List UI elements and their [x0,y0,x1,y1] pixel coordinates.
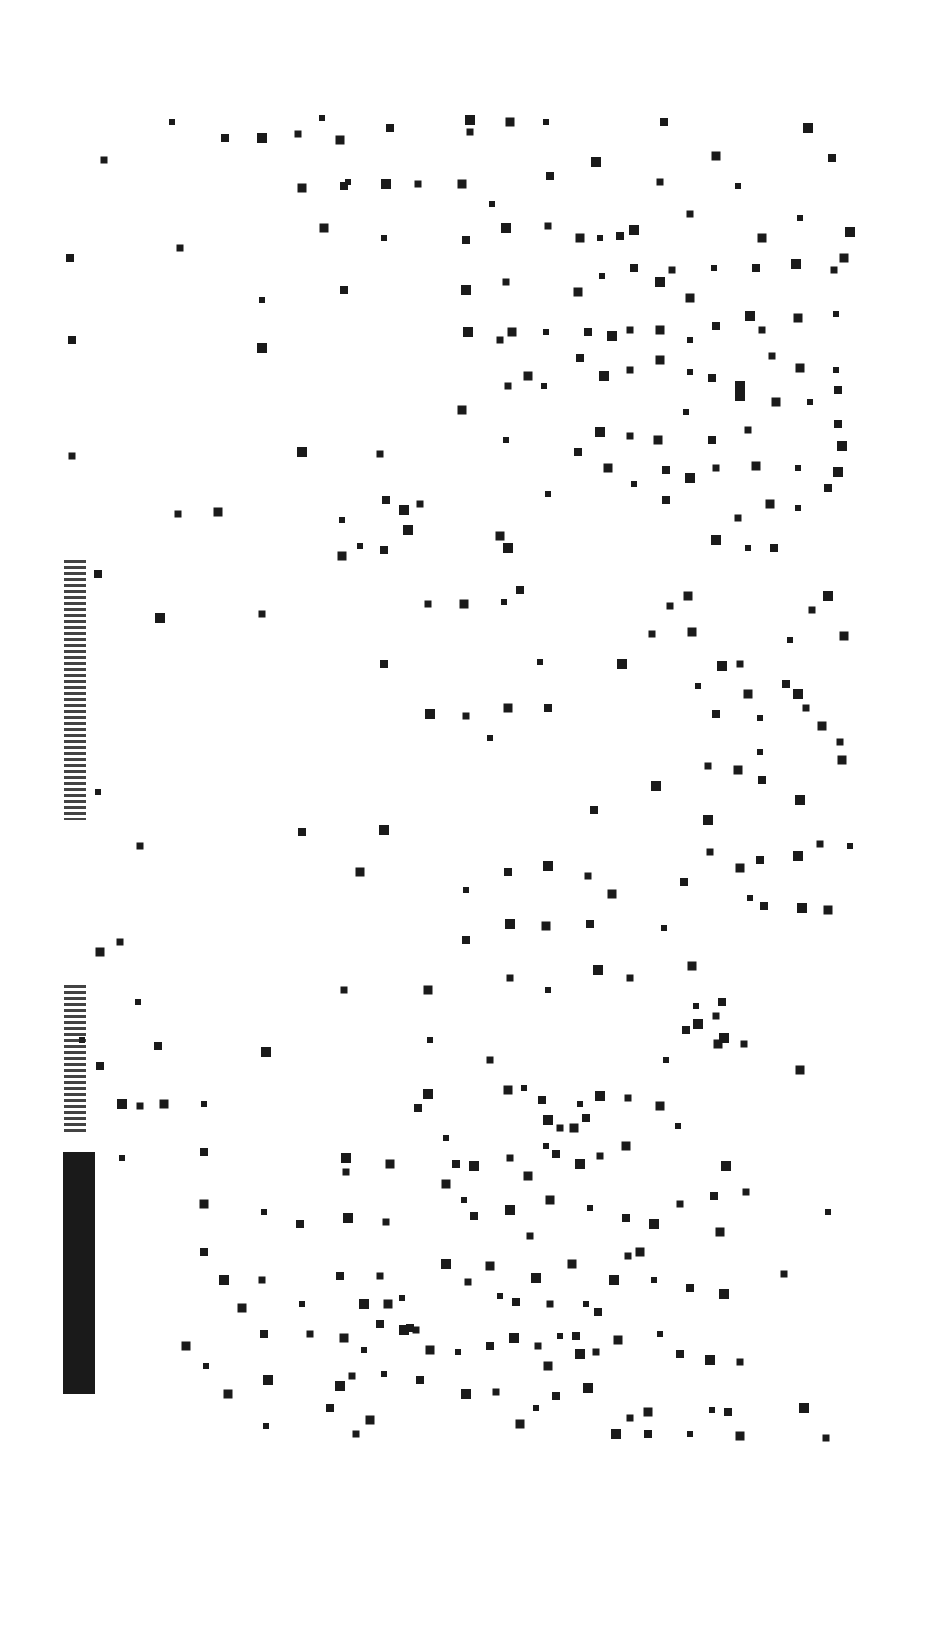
data-point [524,1172,533,1181]
data-point [824,906,833,915]
data-point [584,328,592,336]
data-point [757,715,763,721]
data-point [840,254,849,263]
data-point [424,986,433,995]
data-point [182,1342,191,1351]
data-point [590,806,598,814]
data-point [416,1376,424,1384]
data-point [260,1330,268,1338]
data-point [833,467,843,477]
data-point [686,294,695,303]
data-point [415,181,422,188]
data-point [361,1347,367,1353]
data-point [382,496,390,504]
data-point [595,427,605,437]
data-point [847,843,853,849]
data-point [736,864,745,873]
data-point [705,1355,715,1365]
data-point [831,267,838,274]
data-point [68,336,76,344]
data-point [682,1026,690,1034]
data-point [834,420,842,428]
data-point [506,118,515,127]
data-point [546,172,554,180]
data-point [399,1325,409,1335]
data-point [713,1013,720,1020]
data-point [575,1349,585,1359]
data-point [537,659,543,665]
data-point [793,851,803,861]
data-point [299,1301,305,1307]
data-point [343,1213,353,1223]
data-point [469,1161,479,1171]
data-point [636,1248,645,1257]
data-point [583,1383,593,1393]
data-point [527,1233,534,1240]
data-point [724,1408,732,1416]
data-point [497,337,504,344]
data-point [585,873,592,880]
data-point [838,756,847,765]
data-point [399,1295,405,1301]
data-point [507,1155,514,1162]
data-point [807,399,813,405]
data-point [686,1284,694,1292]
data-point [795,505,801,511]
data-point [505,919,515,929]
data-point [759,327,766,334]
data-point [493,1389,500,1396]
data-point [533,1405,539,1411]
data-point [593,965,603,975]
data-point [793,689,803,699]
data-point [818,722,827,731]
data-point [552,1150,560,1158]
data-point [524,372,533,381]
data-point [782,680,790,688]
data-point [717,661,727,671]
data-point [703,815,713,825]
data-point [667,603,674,610]
data-point [845,227,855,237]
data-point [660,118,668,126]
data-point [535,1343,542,1350]
data-point [379,825,389,835]
data-point [583,1301,589,1307]
data-point [714,1040,723,1049]
data-point [200,1248,208,1256]
data-point [339,517,345,523]
data-point [509,1333,519,1343]
data-point [622,1214,630,1222]
data-point [381,1371,387,1377]
data-point [487,1057,494,1064]
data-point [298,184,307,193]
data-point [463,713,470,720]
data-point [504,704,513,713]
data-point [627,433,634,440]
data-point [543,861,553,871]
data-point [503,437,509,443]
data-point [781,1271,788,1278]
data-point [799,1403,809,1413]
data-point [609,1275,619,1285]
data-point [809,607,816,614]
data-point [460,600,469,609]
data-point [625,1253,632,1260]
data-point [756,856,764,864]
data-point [298,828,306,836]
data-point [688,628,697,637]
data-point [341,987,348,994]
data-point [576,234,585,243]
data-point [745,545,751,551]
data-point [680,878,688,886]
data-point [833,367,839,373]
data-point [735,391,745,401]
data-point [631,481,637,487]
data-point [381,179,391,189]
data-point [719,1289,729,1299]
data-point [617,659,627,669]
data-point [687,369,693,375]
data-point [644,1408,653,1417]
data-point [425,709,435,719]
data-point [496,532,505,541]
rotated-axis-label-lower [64,985,86,1135]
